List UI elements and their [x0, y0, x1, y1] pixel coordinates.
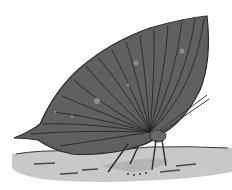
illustration-canvas: [0, 0, 232, 190]
butterfly-illustration: [0, 0, 232, 190]
butterfly-wing: [14, 16, 208, 155]
